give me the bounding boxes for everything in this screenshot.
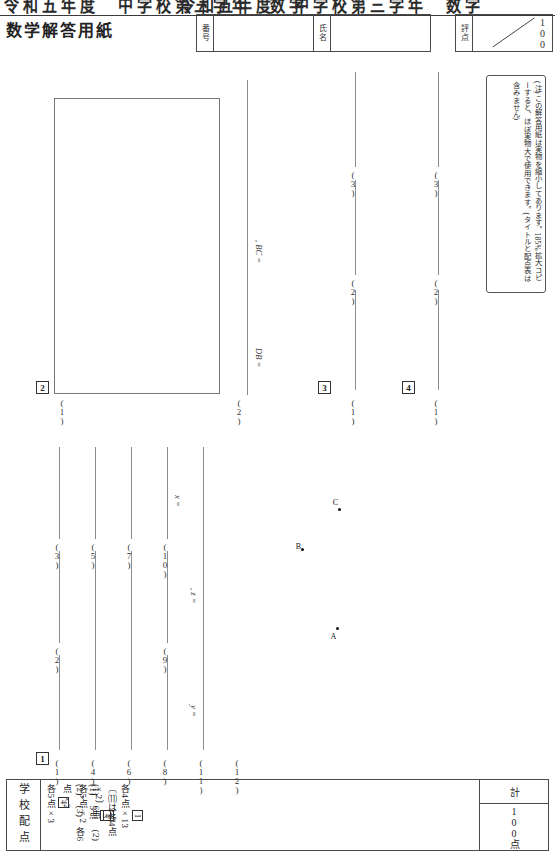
question-4-item-2-label: (2) bbox=[431, 278, 441, 305]
question-1-item-10-line[interactable] bbox=[167, 447, 168, 539]
name-field[interactable] bbox=[331, 15, 430, 51]
diagram-point-c-label: C bbox=[331, 498, 340, 507]
id-number-label-cell: 番号 bbox=[197, 15, 214, 51]
question-1-item-10-prefix: x = bbox=[173, 495, 183, 507]
score-total-cell: 計 100点 bbox=[480, 780, 548, 850]
name-label: 氏名 bbox=[317, 24, 328, 42]
question-3-item-1-line[interactable] bbox=[355, 290, 356, 390]
question-1-item-11-suffix: , z = bbox=[189, 588, 199, 603]
diagram-point-b-label: B bbox=[294, 542, 303, 551]
question-chip-4: 4 bbox=[402, 381, 415, 394]
question-1-item-5-line[interactable] bbox=[95, 447, 96, 539]
id-number-field[interactable] bbox=[214, 15, 314, 51]
score-total-value: 100点 bbox=[507, 806, 522, 849]
question-1-item-6-line[interactable] bbox=[131, 551, 132, 750]
allocation-row-4-text: 各5点×3 bbox=[45, 784, 58, 824]
question-4-item-3-label: (3) bbox=[431, 170, 441, 197]
page-title: 数学解答用紙 bbox=[6, 17, 114, 41]
question-1-item-7-label: (7) bbox=[124, 542, 134, 569]
question-chip-3: 3 bbox=[318, 381, 331, 394]
question-1-item-11-line[interactable] bbox=[203, 447, 204, 750]
cropped-header-strip: 令和五年度 中学校第三学年 数学 令和五年度 中学校第三学年 数学 bbox=[0, 0, 555, 14]
question-2-item-2-suffix: , BC = bbox=[254, 240, 264, 263]
diagram-point-a-label: A bbox=[329, 632, 338, 641]
id-number-label: 番号 bbox=[200, 24, 211, 42]
question-1-item-10-label: (10) bbox=[160, 542, 170, 578]
question-3-item-1-label: (1) bbox=[348, 398, 358, 425]
score-box: 評点 100 bbox=[455, 14, 553, 52]
name-label-cell: 氏名 bbox=[314, 15, 331, 51]
examinee-info-box: 番号 氏名 bbox=[196, 14, 431, 52]
question-4-item-3-line[interactable] bbox=[438, 72, 439, 167]
score-field[interactable]: 100 bbox=[473, 15, 552, 51]
question-1-item-2-label: (2) bbox=[52, 646, 62, 673]
question-2-work-box[interactable] bbox=[54, 98, 220, 394]
question-1-item-7-line[interactable] bbox=[131, 447, 132, 539]
score-label-cell: 評点 bbox=[456, 15, 473, 51]
diagram-point-a-dot bbox=[336, 627, 339, 630]
question-1-item-9-label: (9) bbox=[160, 646, 170, 673]
score-max-value: 100 bbox=[537, 17, 548, 50]
score-total-value-cell: 100点 bbox=[480, 804, 548, 850]
question-2-item-2-prefix: DB = bbox=[254, 348, 264, 367]
score-allocation-heading: 学校配点 bbox=[16, 783, 32, 847]
question-2-item-1-label: (1) bbox=[57, 398, 67, 425]
score-total-label-cell: 計 bbox=[480, 780, 548, 804]
question-3-item-3-label: (3) bbox=[348, 170, 358, 197]
cropped-header-fragment-right: 令和五年度 中学校第三学年 数学 bbox=[180, 0, 484, 14]
question-1-item-11-prefix: y = bbox=[189, 705, 199, 717]
question-2-item-2-line[interactable] bbox=[247, 80, 248, 395]
question-2-item-2-label: (2) bbox=[234, 398, 244, 425]
question-1-item-3-label: (3) bbox=[52, 542, 62, 569]
question-4-item-1-line[interactable] bbox=[438, 290, 439, 390]
answer-sheet-page: 令和五年度 中学校第三学年 数学 令和五年度 中学校第三学年 数学 数学解答用紙… bbox=[0, 0, 555, 855]
allocation-row-3-chip: 3 bbox=[100, 810, 111, 821]
allocation-row-4: 4 各5点×3 bbox=[45, 784, 69, 824]
question-1-item-4-line[interactable] bbox=[95, 551, 96, 750]
question-chip-2: 2 bbox=[36, 381, 49, 394]
question-1-item-3-line[interactable] bbox=[59, 447, 60, 539]
reduction-note-text: (注)この解答用紙は実物を縮小してあります。185%拡大コピーすると、ほぼ実物大… bbox=[510, 81, 542, 287]
question-3-item-2-label: (2) bbox=[348, 278, 358, 305]
allocation-row-1-chip: 1 bbox=[132, 810, 143, 821]
score-total-label: 計 bbox=[507, 787, 522, 797]
score-label: 評点 bbox=[459, 24, 470, 42]
question-chip-1: 1 bbox=[36, 752, 49, 765]
question-1-item-5-label: (5) bbox=[88, 542, 98, 569]
allocation-row-4-chip: 4 bbox=[58, 797, 69, 808]
diagram-point-c-dot bbox=[338, 508, 341, 511]
score-allocation-heading-cell: 学校配点 bbox=[7, 780, 41, 850]
question-3-item-3-line[interactable] bbox=[355, 72, 356, 167]
score-allocation-table: 学校配点 1 各4点×13 〔⑾は各4点×2〕 2 (1) 6点 (2) 各5点… bbox=[6, 779, 549, 851]
score-allocation-rows: 1 各4点×13 〔⑾は各4点×2〕 2 (1) 6点 (2) 各5点×2 3 … bbox=[41, 780, 480, 850]
question-4-item-1-label: (1) bbox=[431, 398, 441, 425]
reduction-note-box: (注)この解答用紙は実物を縮小してあります。185%拡大コピーすると、ほぼ実物大… bbox=[486, 75, 546, 293]
